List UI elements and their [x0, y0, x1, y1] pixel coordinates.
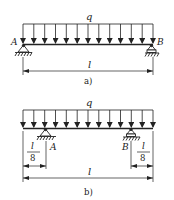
- figure-b: q A B: [23, 97, 153, 197]
- pin-support-icon: [15, 44, 32, 56]
- support-label-b: B: [156, 37, 164, 47]
- load-label-q-a: q: [86, 11, 92, 22]
- fraction-denominator-left: 8: [30, 153, 35, 163]
- support-label-a: A: [49, 142, 57, 152]
- roller-support-icon: [123, 128, 140, 140]
- figure-a: q A B: [10, 11, 164, 86]
- caption-a: a): [84, 76, 92, 86]
- distributed-load-b: [23, 110, 153, 127]
- beam-diagrams: q A B: [0, 0, 174, 200]
- distributed-load-a: [23, 24, 153, 43]
- dimension-overhang-right: l 8: [131, 141, 153, 166]
- load-label-q-b: q: [86, 97, 92, 108]
- pin-support-icon: [37, 128, 56, 140]
- dimension-overhang-left: l 8: [23, 141, 46, 166]
- support-label-a: A: [10, 37, 18, 47]
- support-label-b: B: [121, 142, 129, 152]
- fraction-numerator-left: l: [31, 141, 34, 151]
- fraction-numerator-right: l: [142, 141, 145, 151]
- span-label-l-b: l: [88, 166, 91, 177]
- span-label-l-a: l: [88, 59, 91, 70]
- caption-b: b): [84, 187, 93, 197]
- fraction-denominator-right: 8: [140, 153, 145, 163]
